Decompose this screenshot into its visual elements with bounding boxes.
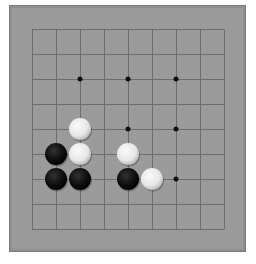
white-stone[interactable] bbox=[69, 118, 91, 140]
board-grid[interactable] bbox=[0, 0, 256, 264]
black-stone[interactable] bbox=[45, 143, 67, 165]
white-stone[interactable] bbox=[141, 168, 163, 190]
star-point bbox=[126, 77, 131, 82]
black-stone[interactable] bbox=[69, 168, 91, 190]
star-point bbox=[174, 77, 179, 82]
star-point bbox=[126, 127, 131, 132]
star-point bbox=[78, 77, 83, 82]
black-stone[interactable] bbox=[45, 168, 67, 190]
black-stone[interactable] bbox=[117, 168, 139, 190]
star-point bbox=[174, 127, 179, 132]
white-stone[interactable] bbox=[69, 143, 91, 165]
white-stone[interactable] bbox=[117, 143, 139, 165]
star-point bbox=[174, 177, 179, 182]
